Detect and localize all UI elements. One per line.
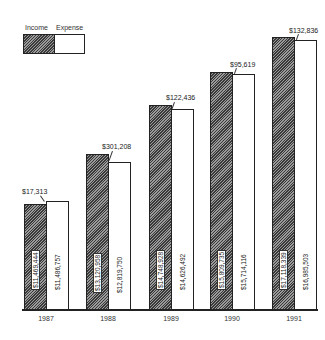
x-label-1990: 1990 [212, 315, 252, 322]
x-label-1989: 1989 [151, 315, 191, 322]
income-label-1988: $13,120,958 [93, 253, 102, 293]
leader-line-1987 [40, 195, 45, 201]
diff-label-1987: $17,313 [22, 188, 47, 195]
leader-line-1988 [109, 151, 113, 161]
expense-label-1989: $14,626,492 [179, 254, 186, 290]
x-label-1988: 1988 [88, 315, 128, 322]
x-axis-baseline [22, 309, 318, 311]
legend-expense-label: Expense [56, 24, 83, 31]
expense-label-1991: $16,985,503 [302, 254, 309, 290]
legend-expense-swatch [54, 34, 85, 54]
legend-income-swatch [23, 34, 55, 54]
leader-line-1989 [172, 102, 175, 109]
x-label-1987: 1987 [26, 315, 66, 322]
income-label-1987: $11,469,444 [31, 250, 40, 290]
expense-label-1990: $15,714,116 [240, 254, 247, 290]
diff-label-1991: $132,836 [289, 27, 318, 34]
expense-label-1987: $11,486,757 [54, 254, 61, 290]
diff-label-1989: $122,436 [166, 94, 195, 101]
diff-label-1990: $95,619 [230, 61, 255, 68]
income-label-1989: $14,748,928 [156, 250, 165, 290]
diff-label-1988: $301,208 [102, 143, 131, 150]
income-label-1991: $17,118,339 [279, 250, 288, 290]
x-label-1991: 1991 [274, 315, 314, 322]
legend-income-label: Income [25, 24, 48, 31]
income-label-1990: $15,809,735 [217, 250, 226, 290]
expense-label-1988: $12,819,750 [116, 257, 123, 293]
